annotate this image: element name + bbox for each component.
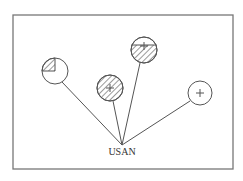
node-4 bbox=[188, 81, 212, 105]
quarter-hatch-wedge bbox=[42, 58, 55, 71]
node-1 bbox=[42, 58, 68, 84]
connector-node-3 bbox=[122, 63, 140, 145]
connector-node-2 bbox=[113, 101, 122, 145]
hub-label: USAN bbox=[108, 146, 135, 157]
connector-lines bbox=[62, 63, 190, 145]
connector-node-4 bbox=[122, 101, 190, 145]
node-3 bbox=[130, 37, 158, 65]
node-2 bbox=[96, 74, 124, 102]
